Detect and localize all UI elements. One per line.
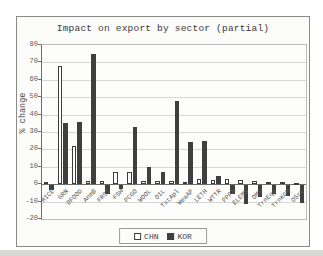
- bar-kor-GRN: [63, 123, 68, 184]
- legend-label-kor: KOR: [178, 232, 192, 241]
- bar-kor-OFOOD: [77, 122, 82, 185]
- y-tick-mark: [38, 166, 41, 167]
- bar-kor-WeaAP: [188, 142, 193, 184]
- bar-chn-AnmB: [86, 181, 91, 184]
- bar-chn-TxtApl: [169, 181, 174, 184]
- bar-kor-WOOL: [147, 167, 152, 184]
- scan-artifact-strip: [0, 250, 323, 256]
- screenshot-page: Impact on export by sector (partial) % c…: [0, 0, 323, 256]
- bar-chn-GRN: [58, 66, 63, 184]
- bar-kor-PCGO: [133, 127, 138, 184]
- y-tick-label: 60: [17, 76, 38, 83]
- y-tick-mark: [38, 218, 41, 219]
- bar-kor-LETH: [202, 141, 207, 185]
- y-tick-mark: [38, 61, 41, 62]
- y-tick-label: -20: [17, 215, 38, 222]
- y-tick-label: 10: [17, 163, 38, 170]
- gridline: [42, 97, 306, 98]
- bar-chn-LETH: [197, 179, 202, 184]
- bar-chn-PPPA: [225, 179, 230, 184]
- y-tick-label: 40: [17, 111, 38, 118]
- y-tick-mark: [38, 96, 41, 97]
- y-tick-mark: [38, 201, 41, 202]
- y-tick-mark: [38, 79, 41, 80]
- y-tick-mark: [38, 131, 41, 132]
- chn-swatch-icon: [134, 233, 141, 240]
- chart-title: Impact on export by sector (partial): [17, 23, 309, 34]
- y-tick-label: 20: [17, 145, 38, 152]
- y-tick-mark: [38, 114, 41, 115]
- kor-swatch-icon: [168, 233, 175, 240]
- plot-area: RICEGRNOFOODAnmBFRSTFSHPCGOWOOLOILTxtApl…: [41, 44, 307, 220]
- bar-chn-PCGO: [127, 172, 132, 184]
- legend-item-kor: KOR: [168, 232, 192, 241]
- gridline: [42, 62, 306, 63]
- bar-chn-WOOL: [141, 181, 146, 184]
- legend-item-chn: CHN: [134, 232, 158, 241]
- bar-chn-FSH: [113, 172, 118, 184]
- bar-chn-TrnEqp: [266, 182, 271, 185]
- zero-axis-line: [42, 184, 306, 185]
- bar-kor-AnmB: [91, 54, 96, 185]
- bar-chn-FRST: [100, 181, 105, 184]
- y-tick-mark: [38, 183, 41, 184]
- y-tick-mark: [38, 44, 41, 45]
- y-tick-mark: [38, 148, 41, 149]
- y-tick-label: 30: [17, 128, 38, 135]
- bar-chn-RICE: [44, 182, 49, 184]
- bar-chn-OSrv: [294, 183, 299, 185]
- chart-frame: Impact on export by sector (partial) % c…: [16, 16, 310, 247]
- bar-kor-WTTR: [216, 176, 221, 185]
- gridline: [42, 80, 306, 81]
- bar-chn-TrnKGM: [280, 182, 285, 184]
- bar-chn-ELEMS: [238, 180, 243, 184]
- bar-chn-WeaAP: [183, 182, 188, 184]
- legend: CHN KOR: [119, 228, 207, 244]
- y-tick-label: 70: [17, 58, 38, 65]
- bar-chn-OIL: [155, 181, 160, 184]
- bar-kor-TxtApl: [175, 101, 180, 185]
- bar-chn-WTTR: [211, 180, 216, 184]
- y-tick-label: 80: [17, 41, 38, 48]
- bar-chn-OFOOD: [72, 146, 77, 184]
- bar-chn-OMF: [252, 181, 257, 184]
- y-tick-label: -10: [17, 198, 38, 205]
- y-tick-label: 0: [17, 180, 38, 187]
- bar-kor-OIL: [161, 172, 166, 184]
- legend-label-chn: CHN: [144, 232, 158, 241]
- y-tick-label: 50: [17, 93, 38, 100]
